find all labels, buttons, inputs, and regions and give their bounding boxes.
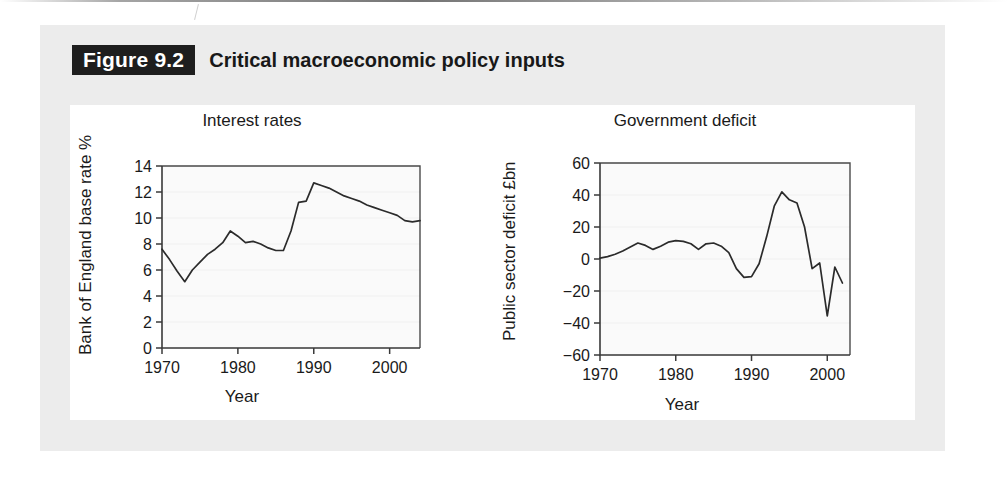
- figure-number-badge: Figure 9.2: [72, 45, 195, 75]
- svg-text:4: 4: [143, 288, 152, 305]
- svg-text:1990: 1990: [734, 366, 770, 383]
- figure-heading: Figure 9.2 Critical macroeconomic policy…: [72, 45, 565, 75]
- svg-text:6: 6: [143, 262, 152, 279]
- chart-government-deficit: Government deficit Public sector deficit…: [490, 105, 915, 420]
- scan-artifact-tick: [194, 4, 199, 20]
- plot-area-interest-rates: 024681012141970198019902000: [70, 105, 470, 405]
- svg-text:14: 14: [134, 158, 152, 175]
- svg-text:12: 12: [134, 184, 152, 201]
- svg-text:1980: 1980: [220, 359, 256, 376]
- svg-text:60: 60: [572, 155, 590, 172]
- plots-panel: Interest rates Bank of England base rate…: [70, 105, 915, 420]
- svg-text:−60: −60: [563, 347, 590, 364]
- svg-text:−40: −40: [563, 315, 590, 332]
- svg-text:1990: 1990: [296, 359, 332, 376]
- figure-caption: Critical macroeconomic policy inputs: [209, 49, 565, 72]
- svg-text:2000: 2000: [372, 359, 408, 376]
- svg-text:1970: 1970: [582, 366, 618, 383]
- svg-text:0: 0: [581, 251, 590, 268]
- chart-interest-rates: Interest rates Bank of England base rate…: [70, 105, 470, 420]
- svg-text:2: 2: [143, 314, 152, 331]
- scan-artifact-top-line: [0, 0, 1008, 2]
- svg-text:1980: 1980: [658, 366, 694, 383]
- svg-text:10: 10: [134, 210, 152, 227]
- svg-text:8: 8: [143, 236, 152, 253]
- svg-text:1970: 1970: [144, 359, 180, 376]
- svg-text:0: 0: [143, 340, 152, 357]
- plot-area-government-deficit: −60−40−2002040601970198019902000: [490, 105, 915, 405]
- svg-text:20: 20: [572, 219, 590, 236]
- svg-text:2000: 2000: [809, 366, 845, 383]
- svg-text:−20: −20: [563, 283, 590, 300]
- svg-text:40: 40: [572, 187, 590, 204]
